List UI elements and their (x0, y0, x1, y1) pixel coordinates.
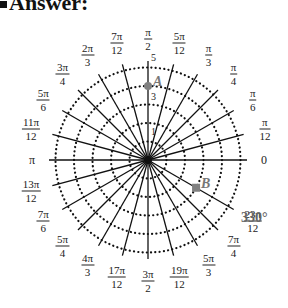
angle-label-90: π2 (144, 27, 152, 52)
ray-165 (52, 134, 148, 160)
angle-label-75: 5π12 (173, 31, 186, 56)
point-b-label: B (201, 176, 210, 192)
angle-label-300: 5π3 (202, 252, 215, 277)
ray-285 (148, 160, 174, 256)
angle-label-0: 0 (261, 155, 267, 166)
angle-label-120: 2π3 (81, 43, 94, 68)
angle-label-105: 7π12 (110, 31, 123, 56)
point-a-marker (144, 82, 152, 90)
angle-label-180: π (29, 155, 35, 166)
angle-label-195: 13π12 (22, 179, 41, 204)
angle-label-165: 11π12 (22, 116, 40, 141)
angle-label-15: π12 (259, 116, 270, 141)
angle-label-315: 7π4 (227, 233, 240, 258)
angle-label-45: π4 (230, 62, 238, 87)
radial-tick-1: 1 (151, 126, 156, 137)
angle-label-240: 4π3 (81, 252, 94, 277)
angle-label-285: 19π12 (170, 264, 189, 289)
angle-label-135: 3π4 (56, 62, 69, 87)
angle-label-255: 17π12 (107, 264, 126, 289)
ray-15 (148, 134, 244, 160)
point-b-marker (192, 184, 200, 192)
point-a-label: A (153, 74, 162, 90)
radial-tick-5: 5 (151, 52, 156, 63)
angle-label-150: 5π6 (37, 87, 50, 112)
angle-annotation: 330° (241, 210, 268, 226)
origin-dot (144, 156, 152, 164)
radial-tick-3: 3 (151, 91, 156, 102)
angle-label-225: 5π4 (56, 233, 69, 258)
angle-label-210: 7π6 (37, 208, 50, 233)
angle-label-60: π3 (205, 43, 213, 68)
angle-label-30: π6 (249, 87, 257, 112)
angle-label-270: 3π2 (141, 269, 154, 294)
ray-195 (52, 160, 148, 186)
